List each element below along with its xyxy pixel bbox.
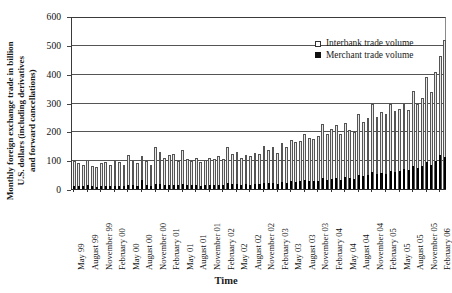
x-tick-mark <box>385 189 386 192</box>
bar-merchant <box>380 173 382 190</box>
x-tick-label: May 01 <box>185 244 195 271</box>
bar-merchant <box>421 166 423 190</box>
x-tick-mark <box>304 189 305 192</box>
x-tick-mark <box>331 189 332 192</box>
x-tick-mark <box>100 189 101 192</box>
y-tick-mark-200 <box>67 132 71 133</box>
y-tick-mark-400 <box>67 75 71 76</box>
y-tick-label-600: 600 <box>31 11 61 22</box>
x-tick-mark <box>222 189 223 192</box>
x-tick-label: November 01 <box>212 223 222 270</box>
legend-label-merchant: Merchant trade volume <box>326 50 413 62</box>
y-tick-label-300: 300 <box>31 98 61 109</box>
x-tick-mark <box>168 189 169 192</box>
chart-figure: Monthly foreign exchange trade in billio… <box>0 0 452 293</box>
y-tick-label-100: 100 <box>31 155 61 166</box>
bar-merchant <box>435 161 437 190</box>
x-tick-mark <box>155 189 156 192</box>
bar-merchant <box>394 172 396 190</box>
bar-merchant <box>412 166 414 190</box>
x-tick-label: May 04 <box>348 244 358 271</box>
x-tick-label: August 05 <box>415 234 425 270</box>
x-tick-label: February 03 <box>280 228 290 270</box>
chart-legend: Interbank trade volume Merchant trade vo… <box>315 38 413 61</box>
bar-merchant <box>371 172 373 190</box>
x-tick-label: May 99 <box>76 244 86 271</box>
bar-merchant <box>430 165 432 190</box>
y-tick-mark-100 <box>67 161 71 162</box>
legend-item-merchant: Merchant trade volume <box>315 50 413 62</box>
x-tick-mark <box>263 189 264 192</box>
x-tick-mark <box>371 189 372 192</box>
y-tick-mark-0 <box>67 190 71 191</box>
bar-merchant <box>408 170 410 190</box>
bar-merchant <box>358 175 360 190</box>
x-tick-label: May 03 <box>293 244 303 271</box>
x-tick-mark <box>209 189 210 192</box>
x-tick-mark <box>277 189 278 192</box>
bar-merchant <box>426 162 428 190</box>
x-tick-label: May 05 <box>402 244 412 271</box>
y-tick-label-200: 200 <box>31 126 61 137</box>
x-axis-tick-labels: May 99August 99November 99February 00May… <box>0 192 452 274</box>
bar-merchant <box>417 168 419 190</box>
x-tick-label: November 05 <box>429 223 439 270</box>
legend-item-interbank: Interbank trade volume <box>315 38 413 50</box>
y-tick-label-400: 400 <box>31 69 61 80</box>
bar-merchant <box>444 157 446 190</box>
legend-swatch-open-square-icon <box>315 41 321 47</box>
x-tick-label: August 99 <box>90 234 100 270</box>
x-tick-label: August 01 <box>198 234 208 270</box>
x-tick-label: November 99 <box>104 223 114 270</box>
bar-merchant <box>367 175 369 190</box>
x-tick-mark <box>344 189 345 192</box>
x-tick-label: May 00 <box>131 244 141 271</box>
plot-area: Interbank trade volume Merchant trade vo… <box>71 17 446 190</box>
x-tick-mark <box>412 189 413 192</box>
x-tick-mark <box>141 189 142 192</box>
x-tick-mark <box>399 189 400 192</box>
y-tick-label-500: 500 <box>31 40 61 51</box>
x-tick-label: August 00 <box>144 234 154 270</box>
bar-merchant <box>362 176 364 190</box>
x-tick-label: November 02 <box>266 223 276 270</box>
bar-merchant <box>439 155 441 190</box>
x-tick-label: February 04 <box>334 228 344 270</box>
x-tick-label: February 02 <box>226 228 236 270</box>
y-tick-mark-600 <box>67 17 71 18</box>
bar-merchant <box>403 169 405 190</box>
bar-merchant <box>385 174 387 190</box>
y-tick-mark-500 <box>67 46 71 47</box>
x-tick-mark <box>290 189 291 192</box>
x-tick-mark <box>87 189 88 192</box>
x-tick-mark <box>249 189 250 192</box>
x-tick-mark <box>236 189 237 192</box>
x-tick-mark <box>426 189 427 192</box>
x-tick-mark <box>439 189 440 192</box>
x-tick-label: November 03 <box>320 223 330 270</box>
x-tick-label: February 01 <box>171 228 181 270</box>
legend-label-interbank: Interbank trade volume <box>326 38 413 50</box>
x-tick-mark <box>317 189 318 192</box>
bar-merchant <box>399 171 401 190</box>
bar-merchant <box>390 171 392 190</box>
y-tick-mark-300 <box>67 104 71 105</box>
x-tick-mark <box>182 189 183 192</box>
x-tick-label: August 02 <box>253 234 263 270</box>
x-tick-label: August 03 <box>307 234 317 270</box>
x-tick-label: February 05 <box>388 228 398 270</box>
x-tick-label: May 02 <box>239 244 249 271</box>
x-tick-mark <box>114 189 115 192</box>
x-tick-mark <box>73 189 74 192</box>
bar-merchant <box>376 174 378 190</box>
x-tick-label: November 00 <box>158 223 168 270</box>
x-tick-mark <box>358 189 359 192</box>
x-tick-label: February 06 <box>442 228 452 270</box>
x-axis-title: Time <box>0 275 452 286</box>
x-tick-mark <box>127 189 128 192</box>
x-tick-mark <box>195 189 196 192</box>
x-tick-label: November 04 <box>375 223 385 270</box>
x-tick-label: August 04 <box>361 234 371 270</box>
legend-swatch-filled-square-icon <box>315 52 321 58</box>
x-tick-label: February 00 <box>117 228 127 270</box>
